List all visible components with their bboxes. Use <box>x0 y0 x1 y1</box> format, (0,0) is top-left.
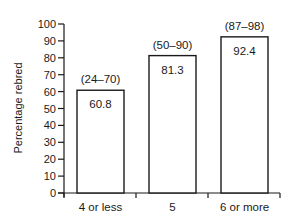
y-axis-label: Percentage rebred <box>12 62 24 153</box>
y-tick-label: 30 <box>44 136 56 148</box>
y-axis: 0102030405060708090100 <box>38 18 64 199</box>
x-category-label: 5 <box>169 201 175 213</box>
y-tick-label: 60 <box>44 86 56 98</box>
range-annotation: (87–98) <box>225 20 265 32</box>
bar-value-label: 60.8 <box>89 98 111 110</box>
y-tick-label: 100 <box>38 18 56 30</box>
y-tick-label: 10 <box>44 170 56 182</box>
y-tick-label: 90 <box>44 35 56 47</box>
x-axis <box>58 193 280 198</box>
range-annotation: (24–70) <box>81 73 121 85</box>
x-category-label: 6 or more <box>220 201 269 213</box>
bar-chart: 0102030405060708090100 Percentage rebred… <box>0 0 294 223</box>
y-tick-label: 0 <box>50 187 56 199</box>
x-category-label: 4 or less <box>79 201 123 213</box>
bar-group: 81.3(50–90)5 <box>149 39 196 213</box>
y-tick-label: 40 <box>44 119 56 131</box>
bar-value-label: 81.3 <box>161 64 183 76</box>
y-tick-label: 80 <box>44 52 56 64</box>
range-annotation: (50–90) <box>153 39 193 51</box>
bar <box>221 37 268 193</box>
y-tick-label: 70 <box>44 69 56 81</box>
y-tick-label: 50 <box>44 103 56 115</box>
bar-group: 60.8(24–70)4 or less <box>77 73 124 213</box>
bar <box>149 56 196 193</box>
bar-value-label: 92.4 <box>233 45 256 57</box>
y-tick-label: 20 <box>44 153 56 165</box>
bars: 60.8(24–70)4 or less81.3(50–90)592.4(87–… <box>77 20 269 213</box>
bar-group: 92.4(87–98)6 or more <box>220 20 269 213</box>
